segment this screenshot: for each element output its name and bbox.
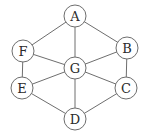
node-label: G [70,61,80,76]
node-d: D [64,108,86,130]
node-f: F [12,40,34,62]
graph-diagram: ABCDEFG [0,0,146,138]
node-label: D [70,112,80,127]
node-label: A [69,9,80,24]
node-label: E [17,81,27,96]
node-label: F [18,44,27,59]
nodes-layer: ABCDEFG [11,5,138,130]
node-label: C [121,81,131,96]
node-a: A [64,5,86,27]
node-b: B [116,37,138,59]
node-g: G [64,57,86,79]
node-c: C [115,77,137,99]
node-e: E [11,77,33,99]
node-label: B [122,41,132,56]
